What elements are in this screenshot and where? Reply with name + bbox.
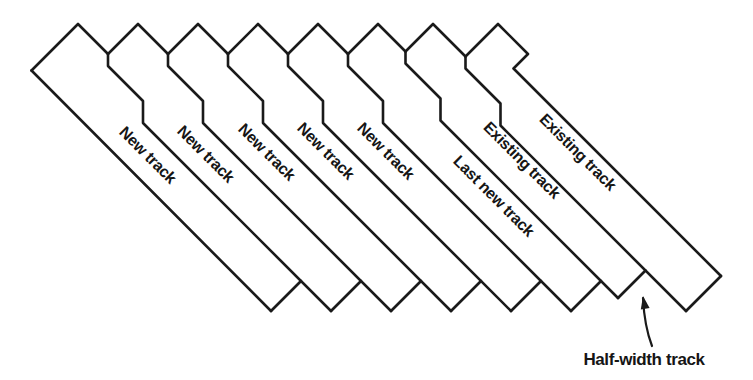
half-width-track-diagram: New trackNew trackNew trackNew trackNew …: [0, 0, 753, 380]
track-bottom-edge-5: [511, 281, 541, 311]
track-top-outline-1: [32, 24, 109, 71]
track-label-2: New track: [174, 122, 238, 186]
track-bottom-edge-4: [451, 281, 481, 311]
track-top-outline-3: [168, 24, 228, 54]
figure-canvas: New trackNew trackNew trackNew trackNew …: [0, 0, 753, 380]
junction-line-7: [466, 57, 687, 312]
track-bottom-edge-1: [271, 281, 301, 311]
track-label-1: New track: [116, 123, 180, 187]
track-top-outline-7: [406, 24, 466, 57]
track-label-3: New track: [235, 120, 299, 184]
track-bottom-edge-6: [571, 281, 601, 311]
track-bottom-edge-2: [331, 281, 361, 311]
half-width-track-label: Half-width track: [583, 350, 705, 369]
track-top-outline-4: [228, 24, 288, 54]
track-bottom-edge-8: [686, 276, 721, 311]
track-bottom-edge-3: [391, 281, 421, 311]
track-label-4: New track: [294, 119, 358, 183]
track-left-edge: [32, 71, 272, 312]
track-top-outline-6: [348, 24, 406, 54]
junction-line-6: [406, 52, 619, 299]
track-bottom-edge-7: [618, 271, 646, 299]
track-top-outline-2: [108, 24, 168, 54]
track-top-outline-5: [288, 24, 348, 54]
track-label-5: New track: [354, 119, 418, 183]
